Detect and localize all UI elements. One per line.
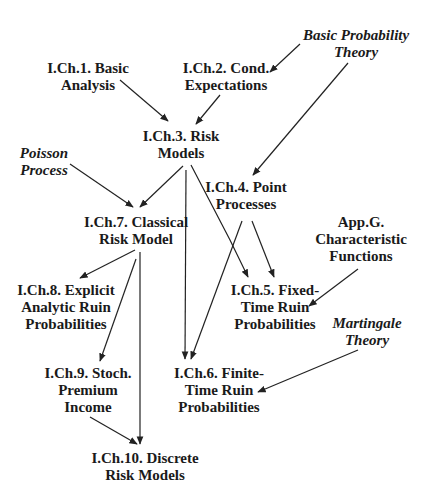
node-label-line: Martingale — [332, 315, 401, 332]
node-label-line: Analysis — [47, 77, 129, 94]
node-label-line: I.Ch.2. Cond. — [183, 60, 269, 77]
node-label-line: Characteristic — [315, 231, 407, 248]
node-pp: PoissonProcess — [20, 145, 68, 179]
node-label-line: Theory — [303, 44, 409, 61]
node-label-line: Processes — [205, 196, 287, 213]
arrow-mt-to-ch6 — [258, 350, 358, 392]
node-ch7: I.Ch.7. ClassicalRisk Model — [84, 214, 188, 248]
node-label-line: I.Ch.7. Classical — [84, 214, 188, 231]
arrow-ch3-to-ch7 — [140, 166, 183, 207]
arrow-bpt-to-ch2 — [270, 44, 300, 72]
node-ch2: I.Ch.2. Cond.Expectations — [183, 60, 269, 94]
arrow-ch3-to-ch6 — [185, 170, 186, 359]
node-label-line: I.Ch.4. Point — [205, 179, 287, 196]
node-ch4: I.Ch.4. PointProcesses — [205, 179, 287, 213]
node-label-line: Premium — [44, 382, 131, 399]
node-label-line: I.Ch.6. Finite- — [174, 365, 264, 382]
node-ch9: I.Ch.9. Stoch.PremiumIncome — [44, 365, 131, 416]
node-label-line: Expectations — [183, 77, 269, 94]
arrow-pp-to-ch7 — [70, 164, 133, 207]
node-label-line: Models — [143, 145, 220, 162]
node-label-line: Basic Probability — [303, 27, 409, 44]
node-label-line: Poisson — [20, 145, 68, 162]
node-label-line: I.Ch.8. Explicit — [17, 282, 115, 299]
node-label-line: Process — [20, 162, 68, 179]
node-ch6: I.Ch.6. Finite-Time RuinProbabilities — [174, 365, 264, 416]
node-label-line: I.Ch.9. Stoch. — [44, 365, 131, 382]
node-ch5: I.Ch.5. Fixed-Time RuinProbabilities — [231, 282, 319, 333]
node-label-line: Probabilities — [17, 316, 115, 333]
node-ch8: I.Ch.8. ExplicitAnalytic RuinProbabiliti… — [17, 282, 115, 333]
arrow-ch4-to-ch5 — [252, 221, 274, 277]
node-label-line: I.Ch.3. Risk — [143, 128, 220, 145]
node-label-line: Analytic Ruin — [17, 299, 115, 316]
node-ch3: I.Ch.3. RiskModels — [143, 128, 220, 162]
node-label-line: I.Ch.10. Discrete — [91, 450, 198, 467]
node-label-line: App.G. — [315, 214, 407, 231]
arrow-ch9-to-ch10 — [90, 417, 137, 444]
node-ch1: I.Ch.1. BasicAnalysis — [47, 60, 129, 94]
arrow-ch2-to-ch3 — [196, 95, 220, 124]
node-label-line: Probabilities — [174, 399, 264, 416]
node-label-line: Functions — [315, 248, 407, 265]
node-label-line: Probabilities — [231, 316, 319, 333]
node-label-line: Theory — [332, 332, 401, 349]
node-label-line: I.Ch.1. Basic — [47, 60, 129, 77]
node-label-line: Time Ruin — [231, 299, 319, 316]
node-label-line: I.Ch.5. Fixed- — [231, 282, 319, 299]
node-ch10: I.Ch.10. DiscreteRisk Models — [91, 450, 198, 484]
node-label-line: Income — [44, 399, 131, 416]
node-appg: App.G.CharacteristicFunctions — [315, 214, 407, 265]
node-bpt: Basic ProbabilityTheory — [303, 27, 409, 61]
node-mt: MartingaleTheory — [332, 315, 401, 349]
node-label-line: Risk Model — [84, 231, 188, 248]
dependency-diagram: Basic ProbabilityTheoryI.Ch.1. BasicAnal… — [0, 0, 428, 503]
node-label-line: Time Ruin — [174, 382, 264, 399]
arrow-ch7-to-ch8 — [80, 250, 135, 278]
node-label-line: Risk Models — [91, 467, 198, 484]
